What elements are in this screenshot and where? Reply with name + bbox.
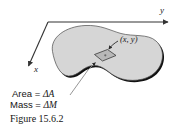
x-axis-line — [29, 22, 49, 66]
area-annotation-text: Area = ΔA — [12, 88, 54, 99]
y-axis-label: y — [159, 5, 164, 15]
mass-label-prefix: Mass = — [10, 99, 44, 110]
area-symbol: A — [47, 89, 54, 99]
area-element-center-dot — [104, 54, 106, 56]
figure-canvas: y x (x, y) Area = ΔA Mass = ΔM Figure 15… — [0, 0, 185, 132]
area-label-prefix: Area = — [12, 88, 43, 99]
mass-annotation-text: Mass = ΔM — [10, 99, 58, 110]
mass-symbol: M — [48, 100, 58, 110]
point-coordinate-label: (x, y) — [120, 34, 138, 44]
figure-container: y x (x, y) Area = ΔA Mass = ΔM Figure 15… — [0, 0, 185, 132]
figure-number-label: Figure 15.6.2 — [10, 113, 64, 124]
x-axis-label: x — [33, 64, 38, 74]
